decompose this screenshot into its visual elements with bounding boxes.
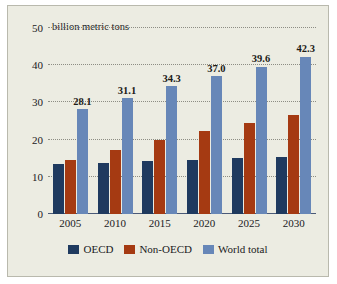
y-axis-tick-label: 30 xyxy=(32,97,43,108)
bar-group: 28.12005 xyxy=(48,28,93,214)
legend-item[interactable]: World total xyxy=(203,244,268,255)
bar-group: 42.32030 xyxy=(271,28,316,214)
bar-non-oecd xyxy=(244,123,255,214)
legend-swatch-icon xyxy=(124,245,135,254)
bar-world-total: 31.1 xyxy=(122,98,133,214)
x-axis-tick-label: 2025 xyxy=(238,218,260,229)
bar-non-oecd xyxy=(199,131,210,214)
x-axis-tick-label: 2015 xyxy=(149,218,171,229)
legend-swatch-icon xyxy=(68,245,79,254)
bar-group: 37.02020 xyxy=(182,28,227,214)
bar-group: 39.62025 xyxy=(227,28,272,214)
legend-label: OECD xyxy=(83,244,113,255)
x-axis-tick-label: 2005 xyxy=(59,218,81,229)
bar-world-total: 42.3 xyxy=(300,57,311,214)
y-axis-tick-label: 20 xyxy=(32,134,43,145)
y-axis-tick-label: 10 xyxy=(32,171,43,182)
x-axis-tick-label: 2010 xyxy=(104,218,126,229)
bars: 34.3 xyxy=(137,28,182,214)
bar-non-oecd xyxy=(288,115,299,214)
bar-world-total: 34.3 xyxy=(166,86,177,214)
bar-group: 34.32015 xyxy=(137,28,182,214)
bar-groups: 28.1200531.1201034.3201537.0202039.62025… xyxy=(48,28,316,214)
bar-value-label: 31.1 xyxy=(118,86,136,97)
bar-oecd xyxy=(98,163,109,214)
bar-world-total: 28.1 xyxy=(77,109,88,214)
legend-item[interactable]: OECD xyxy=(68,244,113,255)
chart-card: billion metric tons 01020304050 28.12005… xyxy=(7,5,329,277)
plot-area: 01020304050 28.1200531.1201034.3201537.0… xyxy=(48,28,316,214)
bar-oecd xyxy=(53,164,64,214)
bars: 42.3 xyxy=(271,28,316,214)
bar-world-total: 39.6 xyxy=(256,67,267,214)
x-axis-tick-label: 2020 xyxy=(193,218,215,229)
bar-oecd xyxy=(142,161,153,214)
y-axis-tick-label: 50 xyxy=(32,23,43,34)
bar-group: 31.12010 xyxy=(93,28,138,214)
bar-world-total: 37.0 xyxy=(211,76,222,214)
bar-value-label: 42.3 xyxy=(297,44,315,55)
bars: 39.6 xyxy=(227,28,272,214)
bar-non-oecd xyxy=(154,140,165,214)
bar-oecd xyxy=(187,160,198,214)
bars: 31.1 xyxy=(93,28,138,214)
legend-label: World total xyxy=(218,244,268,255)
bar-value-label: 37.0 xyxy=(207,64,225,75)
bar-value-label: 28.1 xyxy=(73,97,91,108)
y-axis-tick-label: 0 xyxy=(38,209,44,220)
bar-oecd xyxy=(232,158,243,214)
bar-non-oecd xyxy=(65,160,76,214)
legend-label: Non-OECD xyxy=(139,244,192,255)
y-axis-tick-label: 40 xyxy=(32,60,43,71)
bar-oecd xyxy=(276,157,287,214)
bars: 37.0 xyxy=(182,28,227,214)
x-axis-tick-label: 2030 xyxy=(283,218,305,229)
legend-item[interactable]: Non-OECD xyxy=(124,244,192,255)
bars: 28.1 xyxy=(48,28,93,214)
bar-non-oecd xyxy=(110,150,121,214)
bar-value-label: 39.6 xyxy=(252,54,270,65)
legend-swatch-icon xyxy=(203,245,214,254)
chart-legend: OECDNon-OECDWorld total xyxy=(8,244,328,255)
bar-value-label: 34.3 xyxy=(162,74,180,85)
